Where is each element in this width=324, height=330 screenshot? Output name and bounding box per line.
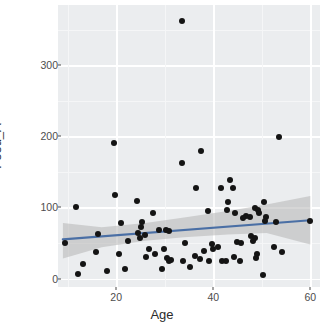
data-point [250,238,256,244]
x-tick-label: 40 [207,291,219,303]
data-point [179,18,185,24]
data-point [111,140,117,146]
data-point [218,185,224,191]
confidence-band [58,5,320,287]
data-point [134,198,140,204]
y-tick-mark [58,65,61,66]
data-point [112,192,118,198]
data-point [227,177,233,183]
data-point [224,207,230,213]
data-point [253,255,259,261]
scatter-plot-figure: 0100200300 204060 Food_A Age [0,0,324,330]
data-point [210,246,216,252]
data-point [150,210,156,216]
data-point [193,185,199,191]
data-point [80,261,86,267]
x-tick-label: 60 [304,291,316,303]
data-point [260,272,266,278]
x-axis-label: Age [0,307,324,322]
data-point [75,271,81,277]
x-tick-mark [116,287,117,290]
y-tick-mark [58,207,61,208]
data-point [137,235,143,241]
x-tick-label: 20 [110,291,122,303]
y-tick-label: 100 [40,201,58,213]
data-point [261,199,267,205]
data-point [223,258,229,264]
x-tick-mark [310,287,311,290]
data-point [262,218,268,224]
data-point [225,199,231,205]
data-point [95,231,101,237]
x-tick-mark [213,287,214,290]
y-tick-mark [58,136,61,137]
y-axis-label: Food_A [0,123,4,169]
y-tick-label: 200 [40,130,58,142]
data-point [143,254,149,260]
data-point [166,228,172,234]
data-point [231,254,237,260]
data-point [276,134,282,140]
data-point [197,256,203,262]
data-point [273,219,279,225]
data-point [201,248,207,254]
data-point [237,258,243,264]
data-point [198,148,204,154]
data-point [116,251,122,257]
plot-panel [58,5,320,287]
data-point [93,249,99,255]
data-point [230,185,236,191]
data-point [159,266,165,272]
data-point [104,268,110,274]
y-tick-mark [58,278,61,279]
y-tick-label: 300 [40,59,58,71]
